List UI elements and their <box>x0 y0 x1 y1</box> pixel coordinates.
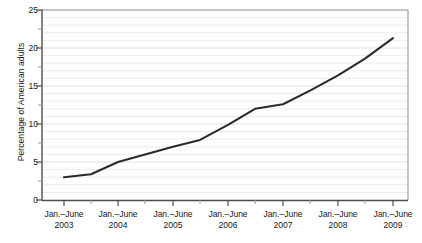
minor-gridlines <box>42 18 408 193</box>
x-tick-year-2009: 2009 <box>358 220 422 231</box>
data-line-percentage-of-american-adults <box>64 38 393 177</box>
x-tick-period-2009: Jan.–June <box>358 209 422 220</box>
y-axis <box>36 10 42 201</box>
x-axis <box>42 200 408 206</box>
x-tick-2009: Jan.–June 2009 <box>358 209 422 232</box>
chart-canvas <box>0 0 422 243</box>
line-chart: Percentage of American adults 25 20 15 1… <box>0 0 422 243</box>
